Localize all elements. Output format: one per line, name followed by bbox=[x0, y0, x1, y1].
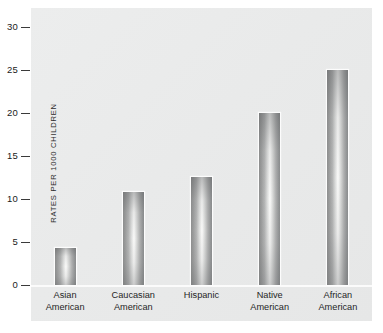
y-axis-tick: 0 bbox=[0, 279, 31, 291]
x-axis-category-label-line: American bbox=[99, 302, 167, 314]
bar bbox=[191, 177, 212, 285]
y-axis: 302520151050 bbox=[0, 0, 31, 333]
x-axis-category-label: AfricanAmerican bbox=[304, 290, 372, 313]
x-axis-category-label: CaucasianAmerican bbox=[99, 290, 167, 313]
plot-area bbox=[31, 8, 372, 285]
y-axis-tick-mark bbox=[21, 27, 30, 28]
y-axis-tick-mark bbox=[21, 70, 30, 71]
x-axis-category-label-line: Caucasian bbox=[99, 290, 167, 302]
x-axis-category-label-line: African bbox=[304, 290, 372, 302]
bar bbox=[327, 70, 348, 285]
bar-chart-figure: 302520151050 RATES PER 1000 CHILDREN Asi… bbox=[0, 0, 383, 333]
y-axis-tick: 25 bbox=[0, 64, 31, 76]
x-axis-category-label: Hispanic bbox=[167, 290, 235, 302]
y-axis-tick-label: 25 bbox=[0, 64, 18, 76]
y-axis-tick: 30 bbox=[0, 21, 31, 33]
y-axis-tick: 15 bbox=[0, 150, 31, 162]
x-axis-category-label: NativeAmerican bbox=[236, 290, 304, 313]
x-axis-category-label-line: Hispanic bbox=[167, 290, 235, 302]
x-axis-category-label-line: Native bbox=[236, 290, 304, 302]
bar bbox=[123, 192, 144, 285]
x-axis-category-labels: AsianAmericanCaucasianAmericanHispanicNa… bbox=[31, 290, 372, 322]
y-axis-tick: 10 bbox=[0, 193, 31, 205]
y-axis-tick-mark bbox=[21, 113, 30, 114]
y-axis-tick-label: 20 bbox=[0, 107, 18, 119]
x-axis-category-label-line: Asian bbox=[31, 290, 99, 302]
y-axis-tick-mark bbox=[21, 156, 30, 157]
y-axis-tick: 20 bbox=[0, 107, 31, 119]
x-axis-category-label-line: American bbox=[236, 302, 304, 314]
y-axis-tick-label: 30 bbox=[0, 21, 18, 33]
y-axis-tick-mark bbox=[21, 285, 30, 286]
y-axis-tick-label: 15 bbox=[0, 150, 18, 162]
y-axis-tick-mark bbox=[21, 242, 30, 243]
y-axis-tick-mark bbox=[21, 199, 30, 200]
bar bbox=[55, 248, 76, 285]
x-axis-category-label-line: American bbox=[31, 302, 99, 314]
x-axis-category-label-line: American bbox=[304, 302, 372, 314]
y-axis-tick-label: 5 bbox=[0, 236, 18, 248]
x-axis-category-label: AsianAmerican bbox=[31, 290, 99, 313]
y-axis-tick: 5 bbox=[0, 236, 31, 248]
y-axis-tick-label: 0 bbox=[0, 279, 18, 291]
x-axis-baseline bbox=[31, 285, 372, 287]
bar bbox=[259, 113, 280, 285]
y-axis-tick-label: 10 bbox=[0, 193, 18, 205]
